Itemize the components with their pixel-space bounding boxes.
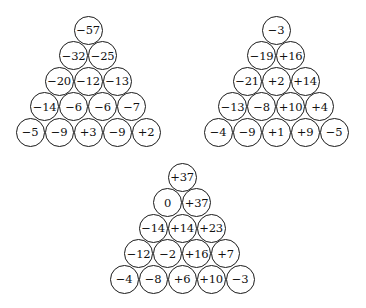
pyramid-cell: −2 (153, 239, 182, 268)
pyramid-cell: +10 (197, 265, 226, 294)
pyramid-cell: −4 (110, 265, 139, 294)
pyramid-cell: 0 (153, 188, 182, 217)
pyramid-cell: +7 (211, 239, 240, 268)
pyramid-cell: +6 (168, 265, 197, 294)
pyramid-cell: +23 (197, 214, 226, 243)
pyramid-cell: +37 (168, 163, 197, 192)
pyramid-cell: −8 (139, 265, 168, 294)
pyramid-cell: −14 (139, 214, 168, 243)
pyramid-cell: −3 (226, 265, 255, 294)
pyramid-cell: −12 (124, 239, 153, 268)
pyramid-3: +370+37−14+14+23−12−2+16+7−4−8+6+10−3 (0, 0, 366, 308)
pyramid-cell: +14 (168, 214, 197, 243)
pyramid-cell: +37 (182, 188, 211, 217)
pyramid-cell: +16 (182, 239, 211, 268)
